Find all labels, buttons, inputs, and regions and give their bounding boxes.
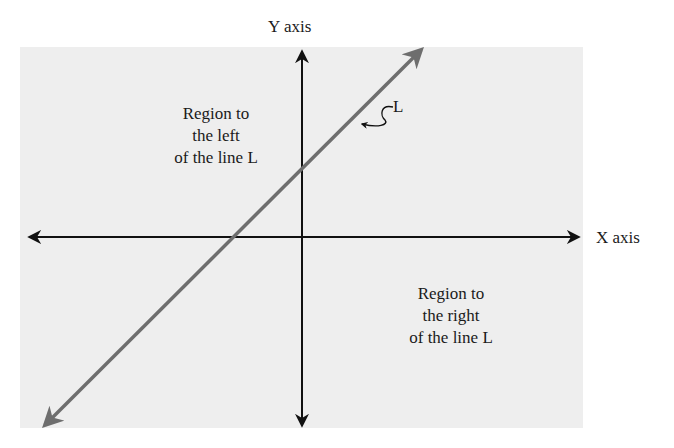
region-right-line-3: of the line L bbox=[376, 327, 526, 349]
region-right-line-1: Region to bbox=[376, 283, 526, 305]
region-right-label: Region to the right of the line L bbox=[376, 283, 526, 349]
region-left-line-3: of the line L bbox=[141, 147, 291, 169]
region-left-line-1: Region to bbox=[141, 103, 291, 125]
region-right-line-2: the right bbox=[376, 305, 526, 327]
y-axis-label: Y axis bbox=[268, 16, 311, 38]
region-left-label: Region to the left of the line L bbox=[141, 103, 291, 169]
line-l-pointer-arrow bbox=[362, 107, 393, 126]
x-axis-label: X axis bbox=[596, 227, 640, 249]
region-left-line-2: the left bbox=[141, 125, 291, 147]
line-l-label: L bbox=[393, 96, 403, 118]
coordinate-diagram bbox=[0, 0, 674, 448]
